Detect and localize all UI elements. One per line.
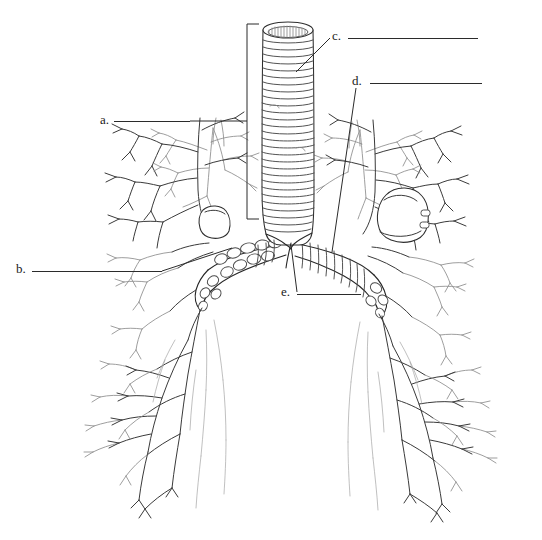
label-a-letter: a. [100, 113, 109, 126]
answer-blank-b[interactable] [32, 271, 162, 272]
trachea [262, 22, 314, 245]
answer-blank-d[interactable] [370, 83, 482, 84]
label-e-letter: e. [281, 285, 290, 298]
answer-blank-c[interactable] [348, 38, 478, 39]
respiratory-diagram-figure: .ln { fill:none; stroke:#3a3a3a; stroke-… [0, 0, 542, 540]
answer-blank-e[interactable] [297, 294, 361, 295]
label-c-letter: c. [332, 29, 341, 42]
answer-blank-a[interactable] [114, 121, 190, 122]
diagram-page: .ln { fill:none; stroke:#3a3a3a; stroke-… [0, 0, 542, 540]
label-d-letter: d. [352, 74, 362, 87]
label-b-letter: b. [16, 262, 26, 275]
